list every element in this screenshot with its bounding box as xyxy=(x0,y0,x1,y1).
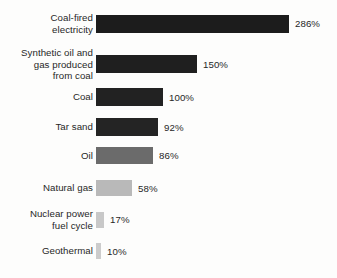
chart-row: Coal-fired electricity 286% xyxy=(0,12,337,35)
bar-zone: 150% xyxy=(96,55,337,73)
value-label: 286% xyxy=(295,18,320,29)
bar-zone: 100% xyxy=(96,88,337,106)
bar-zone: 17% xyxy=(96,212,337,228)
bar xyxy=(96,88,163,106)
bar xyxy=(96,15,289,33)
value-label: 17% xyxy=(110,214,130,225)
bar-zone: 92% xyxy=(96,118,337,136)
bar-zone: 86% xyxy=(96,147,337,164)
category-label: Synthetic oil and gas produced from coal xyxy=(0,47,93,82)
bar xyxy=(96,180,132,196)
bar-zone: 10% xyxy=(96,243,337,259)
value-label: 92% xyxy=(164,122,184,133)
horizontal-bar-chart: Coal-fired electricity 286% Synthetic oi… xyxy=(0,0,337,278)
category-label: Geothermal xyxy=(0,245,93,257)
bar xyxy=(96,147,153,164)
chart-row: Oil 86% xyxy=(0,147,337,164)
chart-row: Natural gas 58% xyxy=(0,180,337,196)
chart-row: Nuclear power fuel cycle 17% xyxy=(0,208,337,231)
value-label: 86% xyxy=(159,150,179,161)
value-label: 10% xyxy=(107,246,127,257)
chart-row: Tar sand 92% xyxy=(0,118,337,136)
chart-row: Geothermal 10% xyxy=(0,243,337,259)
bar xyxy=(96,55,197,73)
bar-zone: 286% xyxy=(96,15,337,33)
bar xyxy=(96,243,101,259)
category-label: Natural gas xyxy=(0,182,93,194)
category-label: Oil xyxy=(0,150,93,162)
category-label: Nuclear power fuel cycle xyxy=(0,208,93,231)
category-label: Coal xyxy=(0,91,93,103)
value-label: 150% xyxy=(203,59,228,70)
bar xyxy=(96,212,104,228)
chart-rows: Coal-fired electricity 286% Synthetic oi… xyxy=(0,0,337,278)
value-label: 100% xyxy=(169,92,194,103)
chart-row: Synthetic oil and gas produced from coal… xyxy=(0,47,337,82)
category-label: Tar sand xyxy=(0,121,93,133)
category-label: Coal-fired electricity xyxy=(0,12,93,35)
bar xyxy=(96,118,158,136)
value-label: 58% xyxy=(138,183,158,194)
chart-row: Coal 100% xyxy=(0,88,337,106)
bar-zone: 58% xyxy=(96,180,337,196)
